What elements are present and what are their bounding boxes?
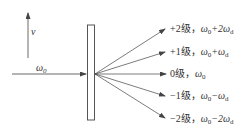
- diffracted-rays: [95, 29, 166, 118]
- ray-order-plus-1: [95, 52, 165, 74]
- velocity-label: v: [31, 26, 36, 37]
- order-label-0: 0级，ω0: [170, 68, 206, 81]
- diffraction-diagram: v ω0 +2级，ω0+2ωd +1级，ω0+ωd 0级，ω0 −1级，ω0−ω…: [0, 0, 248, 134]
- order-label-plus-2: +2级，ω0+2ωd: [170, 23, 234, 36]
- acousto-optic-medium: [88, 25, 95, 120]
- ray-order-minus-2: [95, 74, 165, 118]
- ray-order-plus-2: [95, 29, 165, 74]
- order-label-plus-1: +1级，ω0+ωd: [170, 46, 229, 59]
- incident-frequency-label: ω0: [36, 62, 47, 75]
- order-label-minus-2: −2级，ω0−2ωd: [170, 113, 234, 126]
- order-label-minus-1: −1级，ω0−ωd: [170, 90, 229, 103]
- ray-order-minus-1: [95, 74, 165, 96]
